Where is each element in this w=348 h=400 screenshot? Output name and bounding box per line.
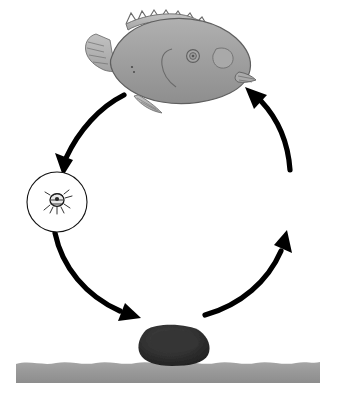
fish-spot bbox=[131, 66, 133, 68]
fish-pectoral-fin bbox=[213, 48, 233, 68]
arrow-shaft bbox=[205, 251, 281, 315]
arrow-adults-to-fish bbox=[245, 87, 290, 170]
larva-stage[interactable] bbox=[27, 172, 87, 232]
arrow-group bbox=[55, 87, 292, 321]
arrow-fish-to-larva bbox=[55, 95, 124, 176]
arrow-shaft bbox=[261, 101, 290, 170]
substrate-rock bbox=[138, 325, 209, 366]
host-fish bbox=[85, 10, 256, 113]
fish-eye-pupil bbox=[192, 55, 195, 58]
diagram-canvas bbox=[0, 0, 348, 400]
life-cycle-diagram: Fish parasite life cycle diagram bbox=[0, 0, 348, 400]
arrow-larva-to-eggs bbox=[55, 233, 141, 321]
arrow-eggs-to-adults bbox=[205, 230, 292, 315]
larva-eye bbox=[55, 197, 59, 201]
arrow-shaft bbox=[66, 95, 124, 158]
fish-spot bbox=[133, 71, 135, 73]
arrow-shaft bbox=[55, 233, 120, 311]
